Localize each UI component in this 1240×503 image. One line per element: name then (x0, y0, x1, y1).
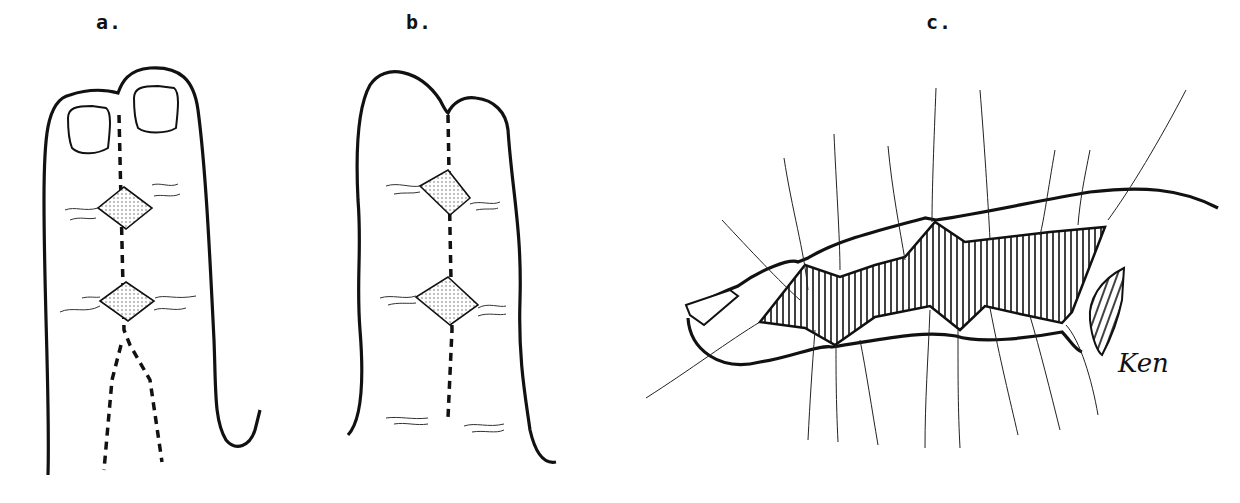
panel-b-drawing (348, 72, 556, 463)
finger-outline-c-bottom (688, 318, 1082, 364)
diamond-flap-b-lower (416, 277, 478, 325)
hatched-dorsal-area (1090, 268, 1124, 355)
nail-right (134, 86, 178, 133)
nail-c (686, 290, 738, 325)
finger-outline-b (348, 72, 556, 463)
panel-c-drawing (646, 88, 1218, 448)
nail-left (68, 106, 110, 153)
diamond-flap-a-lower (100, 282, 154, 321)
panel-a-drawing (44, 68, 260, 475)
dashed-incision-b (448, 115, 452, 418)
dashed-incision-a-left (104, 345, 121, 470)
hatched-graft-area (760, 222, 1105, 345)
diamond-flap-b-upper (420, 170, 470, 215)
illustration-canvas (0, 0, 1240, 503)
diamond-flap-a-upper (98, 187, 152, 229)
